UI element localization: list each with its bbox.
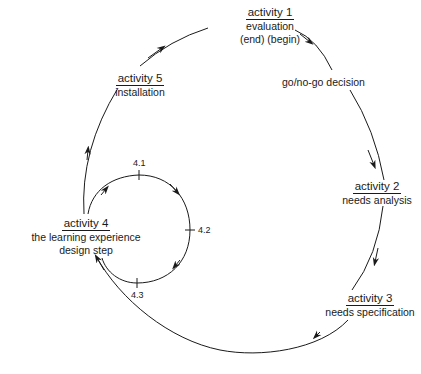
- activity-4-title: activity 4: [62, 217, 111, 231]
- activity-4-line-1: the learning experience: [20, 231, 152, 244]
- activity-1-title: activity 1: [246, 6, 295, 20]
- tick-label-4-3: 4.3: [131, 290, 144, 300]
- activity-3-title: activity 3: [346, 292, 395, 306]
- activity-2-line-1: needs analysis: [332, 194, 421, 207]
- node-activity-2: activity 2 needs analysis: [332, 180, 421, 207]
- activity-1-line-2: (end) (begin): [225, 33, 315, 46]
- node-activity-5: activity 5 installation: [100, 72, 180, 99]
- node-activity-4: activity 4 the learning experience desig…: [20, 217, 152, 257]
- node-activity-3: activity 3 needs specification: [318, 292, 421, 319]
- edge-activity2-to-activity3: [352, 206, 383, 290]
- tick-label-4-2: 4.2: [198, 225, 211, 235]
- edge-activity5-to-activity1: [140, 28, 208, 66]
- activity-5-title: activity 5: [116, 72, 165, 86]
- activity-3-line-1: needs specification: [318, 306, 421, 319]
- activity-2-title: activity 2: [353, 180, 402, 194]
- activity-5-line-1: installation: [100, 86, 180, 99]
- node-go-no-go: go/no-go decision: [282, 76, 365, 89]
- activity-1-line-1: evaluation: [225, 20, 315, 33]
- edge-activity3-to-activity4: [96, 256, 348, 353]
- activity-4-line-2: design step: [20, 244, 152, 257]
- tick-label-4-1: 4.1: [133, 158, 146, 168]
- edge-gonogo-to-activity2: [350, 90, 384, 180]
- node-activity-1: activity 1 evaluation (end) (begin): [225, 6, 315, 46]
- edge-activity4-to-activity5: [84, 88, 118, 214]
